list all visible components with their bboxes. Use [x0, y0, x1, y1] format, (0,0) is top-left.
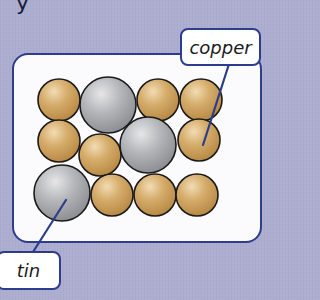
copper-label-text: copper — [189, 37, 251, 58]
tin-label: tin — [0, 251, 61, 290]
tin-label-text: tin — [17, 260, 40, 281]
diagram-panel — [12, 53, 262, 243]
copper-label: copper — [180, 28, 261, 66]
partial-heading-text: y — [16, 0, 29, 15]
